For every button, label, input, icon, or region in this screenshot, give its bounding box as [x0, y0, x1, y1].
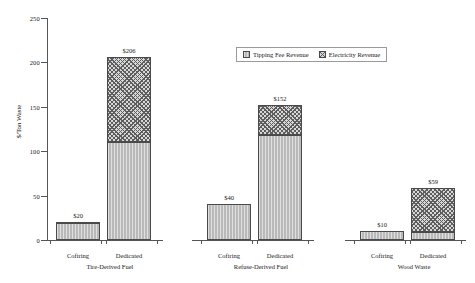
bar-segment-tipping-fee [207, 204, 251, 240]
bar-value-label: $20 [55, 212, 101, 219]
x-axis-tick [106, 240, 107, 244]
x-axis-tick [201, 240, 202, 244]
x-axis-group-label: Refuse-Derived Fuel [196, 263, 326, 270]
bar-5 [360, 231, 404, 240]
stacked-bar-chart: $/Ton Waste 050100150200250 $20$206$40$1… [0, 0, 475, 283]
y-axis-title: $/Ton Waste [15, 87, 22, 157]
bar-value-label: $59 [410, 178, 456, 185]
bar-segment-tipping-fee [56, 223, 100, 240]
bar-segment-tipping-fee [107, 142, 151, 240]
chart-legend: Tipping Fee Revenue Electricity Revenue [236, 47, 387, 62]
x-axis-tick [257, 240, 258, 244]
x-axis-tick [101, 240, 102, 244]
x-axis-bar-label: Dedicated [250, 252, 310, 259]
y-axis-tick [41, 196, 47, 197]
legend-swatch-tipping-icon [243, 51, 250, 58]
y-axis-line [47, 18, 48, 240]
x-axis-tick [50, 240, 51, 244]
y-axis-tick-label: 250 [0, 15, 40, 22]
bar-2 [107, 57, 151, 240]
bar-6 [411, 188, 455, 240]
y-axis-tick-label: 100 [0, 148, 40, 155]
bar-3 [207, 204, 251, 240]
x-axis-tick [354, 240, 355, 244]
bar-value-label: $10 [359, 221, 405, 228]
bar-1 [56, 222, 100, 240]
bar-segment-electricity [258, 105, 302, 135]
legend-label-electricity: Electricity Revenue [329, 51, 380, 58]
x-axis-bar-label: Dedicated [403, 252, 463, 259]
y-axis-tick [41, 151, 47, 152]
x-axis-segment [192, 240, 314, 241]
x-axis-tick [308, 240, 309, 244]
bar-4 [258, 105, 302, 240]
bar-segment-electricity [56, 222, 100, 224]
y-axis-tick-label: 150 [0, 103, 40, 110]
bar-segment-tipping-fee [360, 231, 404, 240]
y-axis-tick-label: 50 [0, 192, 40, 199]
bar-segment-electricity [411, 188, 455, 232]
x-axis-segment [47, 240, 163, 241]
bar-segment-tipping-fee [411, 232, 455, 240]
y-axis-tick [41, 18, 47, 19]
legend-swatch-electricity-icon [319, 51, 326, 58]
bar-segment-electricity [107, 57, 151, 142]
x-axis-group-label: Tire-Derived Fuel [45, 263, 175, 270]
bar-value-label: $152 [257, 95, 303, 102]
y-axis-tick [41, 62, 47, 63]
x-axis-tick [405, 240, 406, 244]
y-axis-tick [41, 107, 47, 108]
x-axis-tick [461, 240, 462, 244]
legend-item-tipping-fee-revenue: Tipping Fee Revenue [243, 51, 309, 58]
x-axis-group-label: Wood Waste [349, 263, 475, 270]
y-axis-tick-label: 200 [0, 59, 40, 66]
x-axis-tick [157, 240, 158, 244]
legend-label-tipping: Tipping Fee Revenue [253, 51, 309, 58]
bar-value-label: $40 [206, 194, 252, 201]
legend-item-electricity-revenue: Electricity Revenue [319, 51, 380, 58]
y-axis-tick-label: 0 [0, 237, 40, 244]
x-axis-tick [410, 240, 411, 244]
x-axis-bar-label: Dedicated [99, 252, 159, 259]
x-axis-tick [252, 240, 253, 244]
bar-segment-tipping-fee [258, 135, 302, 240]
bar-value-label: $206 [106, 47, 152, 54]
